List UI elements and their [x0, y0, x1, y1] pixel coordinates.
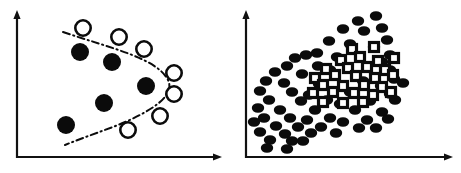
right-scatter-plot	[230, 0, 461, 173]
data-point-filled-dot	[370, 123, 382, 133]
data-point-filled-dot	[337, 117, 349, 127]
data-point-filled-dot	[353, 123, 365, 133]
data-point-open-circle	[120, 122, 135, 137]
data-point-open-circle	[152, 108, 167, 123]
data-point-filled-dot	[361, 115, 373, 125]
data-point-filled-dot	[281, 144, 293, 154]
data-point-open-square	[356, 53, 365, 62]
data-point-filled-dot	[289, 53, 301, 63]
data-point-filled-dot	[254, 86, 266, 96]
data-point-open-square	[370, 43, 379, 52]
data-point-filled-dot	[297, 136, 309, 146]
left-scatter-plot	[0, 0, 230, 173]
data-point-filled-dot	[376, 23, 388, 33]
data-point-filled-dot	[382, 114, 394, 124]
data-point-filled-dot	[323, 36, 335, 46]
data-point-open-square	[387, 88, 396, 97]
data-point-filled-dot	[260, 76, 272, 86]
data-point-filled-dot	[301, 115, 313, 125]
data-point-filled-dot	[296, 69, 308, 79]
data-point-open-square	[319, 81, 328, 90]
data-point-filled-dot	[358, 26, 370, 36]
data-point-filled-dot	[324, 113, 336, 123]
data-point-filled-circle	[95, 94, 113, 112]
data-point-filled-dot	[263, 95, 275, 105]
x-axis-arrow-icon	[213, 153, 222, 160]
data-point-filled-dot	[295, 96, 307, 106]
data-point-filled-dot	[281, 61, 293, 71]
data-point-filled-dot	[300, 50, 312, 60]
data-point-filled-dot	[330, 128, 342, 138]
data-point-filled-dot	[315, 122, 327, 132]
data-point-open-square	[339, 99, 348, 108]
data-point-open-square	[309, 89, 318, 98]
data-point-filled-circle	[57, 116, 75, 134]
data-point-open-circle	[136, 41, 151, 56]
data-point-open-circle	[75, 20, 90, 35]
data-point-filled-dot	[337, 24, 349, 34]
data-point-filled-dot	[270, 121, 282, 131]
data-point-filled-dot	[252, 103, 264, 113]
data-point-open-square	[319, 98, 328, 107]
data-point-filled-dot	[311, 48, 323, 58]
data-point-open-square	[359, 98, 368, 107]
data-point-filled-dot	[278, 78, 290, 88]
data-point-open-square	[363, 63, 372, 72]
data-point-filled-dot	[248, 117, 260, 127]
data-point-open-circle	[111, 29, 126, 44]
data-point-filled-dot	[284, 113, 296, 123]
y-axis-arrow-icon	[242, 10, 249, 19]
y-axis-arrow-icon	[13, 10, 20, 19]
data-point-filled-dot	[261, 143, 273, 153]
data-point-filled-dot	[269, 67, 281, 77]
data-point-filled-circle	[103, 53, 121, 71]
data-point-open-circle	[166, 65, 181, 80]
data-point-filled-dot	[254, 127, 266, 137]
data-point-open-square	[390, 54, 399, 63]
data-point-open-square	[329, 88, 338, 97]
chart-panel-left	[0, 0, 230, 173]
data-point-filled-dot	[286, 87, 298, 97]
data-point-open-square	[369, 91, 378, 100]
data-point-filled-dot	[381, 35, 393, 45]
data-point-filled-circle	[137, 77, 155, 95]
data-point-open-circle	[166, 86, 181, 101]
data-point-filled-dot	[370, 11, 382, 21]
data-point-open-square	[331, 71, 340, 80]
data-point-filled-circle	[71, 43, 89, 61]
data-point-filled-dot	[274, 105, 286, 115]
data-point-open-square	[339, 82, 348, 91]
data-point-filled-dot	[352, 16, 364, 26]
data-point-filled-dot	[305, 128, 317, 138]
data-point-filled-dot	[292, 122, 304, 132]
x-axis-arrow-icon	[444, 153, 453, 160]
data-point-open-square	[389, 71, 398, 80]
chart-panel-right	[230, 0, 461, 173]
figure-container	[0, 0, 461, 173]
data-point-open-square	[360, 81, 369, 90]
